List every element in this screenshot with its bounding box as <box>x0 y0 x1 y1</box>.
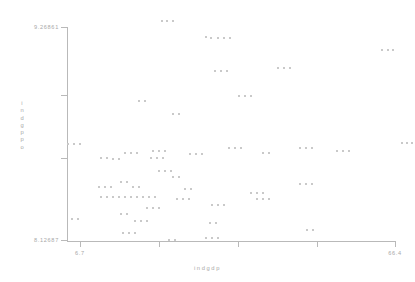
scatter-point <box>214 70 216 72</box>
scatter-point <box>289 67 291 69</box>
scatter-point <box>217 204 219 206</box>
scatter-point <box>217 237 219 239</box>
scatter-point <box>240 147 242 149</box>
scatter-point <box>136 196 138 198</box>
scatter-point <box>100 196 102 198</box>
scatter-point <box>106 157 108 159</box>
scatter-point <box>142 196 144 198</box>
scatter-point <box>124 196 126 198</box>
y-axis-title-char: o <box>16 144 28 151</box>
scatter-point <box>158 207 160 209</box>
y-axis-title-char: d <box>16 115 28 122</box>
scatter-point <box>348 150 350 152</box>
scatter-point <box>134 220 136 222</box>
y-axis-title: indgppo <box>16 100 28 151</box>
scatter-point <box>77 218 79 220</box>
y-axis-title-char: n <box>16 107 28 114</box>
scatter-point <box>104 186 106 188</box>
scatter-point <box>234 147 236 149</box>
scatter-point <box>156 157 158 159</box>
y-axis-title-char: i <box>16 100 28 107</box>
y-axis-tick <box>61 158 68 159</box>
scatter-point <box>178 113 180 115</box>
scatter-point <box>268 198 270 200</box>
scatter-point <box>262 198 264 200</box>
scatter-point <box>262 192 264 194</box>
scatter-point <box>401 142 403 144</box>
scatter-point <box>342 150 344 152</box>
scatter-point <box>162 157 164 159</box>
x-axis-title: indgdp <box>0 265 415 271</box>
scatter-point <box>228 147 230 149</box>
scatter-point <box>172 113 174 115</box>
scatter-point <box>250 192 252 194</box>
x-axis-tick <box>317 241 318 247</box>
y-axis-tick <box>61 240 68 241</box>
scatter-point <box>244 95 246 97</box>
scatter-point <box>118 158 120 160</box>
scatter-point <box>299 183 301 185</box>
y-axis-line <box>67 27 68 241</box>
scatter-point <box>73 143 75 145</box>
scatter-point <box>305 147 307 149</box>
scatter-point <box>130 152 132 154</box>
scatter-point <box>132 186 134 188</box>
scatter-point <box>136 152 138 154</box>
scatter-point <box>118 196 120 198</box>
scatter-point <box>256 198 258 200</box>
scatter-point <box>144 100 146 102</box>
scatter-point <box>120 213 122 215</box>
y-axis-title-char: p <box>16 129 28 136</box>
scatter-point <box>299 147 301 149</box>
scatter-point <box>205 36 207 38</box>
scatter-point <box>406 142 408 144</box>
scatter-point <box>229 37 231 39</box>
scatter-point <box>220 70 222 72</box>
scatter-point <box>100 157 102 159</box>
scatter-point <box>211 237 213 239</box>
scatter-point <box>387 49 389 51</box>
scatter-point <box>158 150 160 152</box>
scatter-point <box>178 176 180 178</box>
scatter-point <box>217 37 219 39</box>
scatter-point <box>110 186 112 188</box>
scatter-point <box>268 152 270 154</box>
x-axis-tick-label: 6.7 <box>60 250 100 256</box>
scatter-point <box>146 207 148 209</box>
scatter-point <box>312 229 314 231</box>
scatter-point <box>170 170 172 172</box>
scatter-point <box>126 181 128 183</box>
scatter-point <box>126 213 128 215</box>
scatter-point <box>210 37 212 39</box>
y-axis-tick-label: 9.26861 <box>14 24 59 30</box>
scatter-point <box>311 147 313 149</box>
scatter-point <box>172 20 174 22</box>
scatter-point <box>98 186 100 188</box>
scatter-point <box>152 207 154 209</box>
scatter-point <box>161 20 163 22</box>
scatter-point <box>184 188 186 190</box>
scatter-point <box>195 153 197 155</box>
scatter-point <box>411 142 413 144</box>
scatter-point <box>226 70 228 72</box>
scatter-point <box>124 152 126 154</box>
scatter-point <box>140 220 142 222</box>
scatter-point <box>146 220 148 222</box>
scatter-point <box>305 183 307 185</box>
scatter-point <box>166 20 168 22</box>
scatter-point <box>238 95 240 97</box>
y-axis-title-char: g <box>16 122 28 129</box>
scatter-point <box>223 204 225 206</box>
scatter-point <box>311 183 313 185</box>
scatter-point <box>283 67 285 69</box>
scatter-point <box>130 196 132 198</box>
scatter-point <box>201 153 203 155</box>
scatter-point <box>182 198 184 200</box>
x-axis-line <box>67 241 396 242</box>
scatter-point <box>205 237 207 239</box>
scatter-point <box>158 170 160 172</box>
scatter-point <box>223 37 225 39</box>
scatter-point <box>134 232 136 234</box>
scatter-point <box>164 170 166 172</box>
scatter-point <box>381 49 383 51</box>
